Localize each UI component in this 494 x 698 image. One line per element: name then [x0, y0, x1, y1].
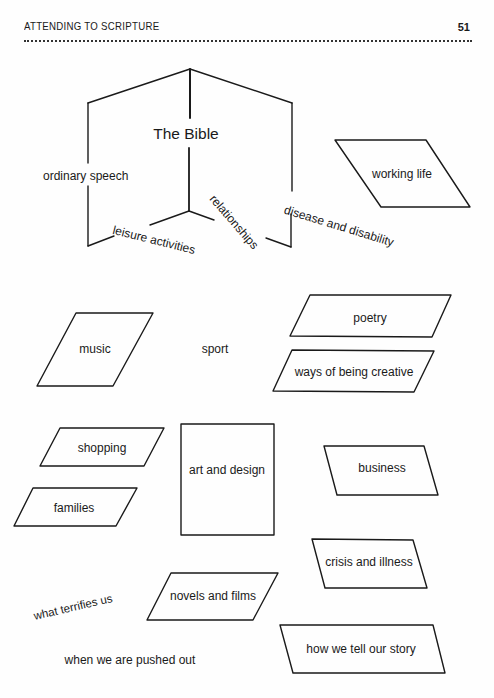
- relationships-label: relationships: [207, 192, 262, 252]
- shopping-label: shopping: [78, 441, 127, 455]
- sport-label: sport: [202, 342, 229, 356]
- bible-title: The Bible: [153, 125, 218, 142]
- when-we-are-pushed-out-label: when we are pushed out: [64, 653, 196, 667]
- bible-context-diagram: The Bible ordinary speech leisure activi…: [0, 0, 494, 698]
- art-and-design-label: art and design: [189, 463, 265, 477]
- families-label: families: [54, 501, 95, 515]
- what-terrifies-us-label: what terrifies us: [31, 592, 113, 622]
- music-label: music: [79, 342, 110, 356]
- how-we-tell-our-story-label: how we tell our story: [306, 642, 415, 656]
- crisis-and-illness-label: crisis and illness: [325, 555, 412, 569]
- ordinary-speech-label: ordinary speech: [43, 169, 128, 183]
- leisure-activities-label: leisure activities: [111, 223, 197, 257]
- disease-and-disability-label: disease and disability: [282, 203, 395, 250]
- book-page: ATTENDING TO SCRIPTURE 51: [0, 0, 494, 698]
- open-book-shape: [88, 69, 292, 247]
- business-label: business: [358, 461, 405, 475]
- art-and-design-box: [181, 424, 274, 535]
- working-life-label: working life: [371, 167, 432, 181]
- novels-and-films-label: novels and films: [170, 589, 256, 603]
- ways-of-being-creative-label: ways of being creative: [294, 365, 414, 379]
- poetry-label: poetry: [353, 311, 386, 325]
